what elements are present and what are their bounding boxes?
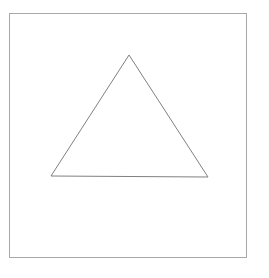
figure-svg [0, 0, 269, 278]
figure-canvas: Triangle outline inside rectangular fram… [0, 0, 269, 278]
canvas-background [0, 0, 269, 278]
